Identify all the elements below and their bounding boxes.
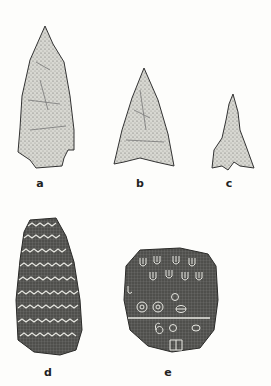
label-d: d [44, 366, 52, 379]
artifact-d-stone [16, 218, 82, 355]
artifact-illustration [0, 0, 271, 386]
artifact-e-stone [124, 248, 218, 352]
label-e: e [164, 366, 171, 379]
artifact-b-point [114, 68, 174, 166]
label-a: a [36, 177, 43, 190]
label-b: b [136, 177, 144, 190]
artifact-a-point [18, 26, 74, 168]
label-c: c [226, 177, 233, 190]
artifact-c-point [212, 94, 254, 170]
